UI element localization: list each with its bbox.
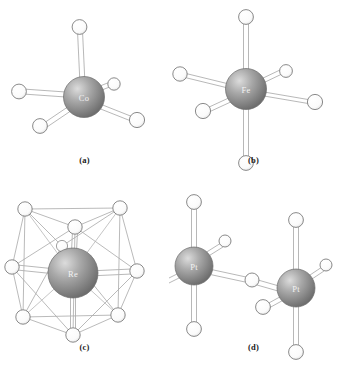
- ligand-sphere: [173, 67, 187, 81]
- metal-label-pt-right: Pt: [292, 284, 300, 294]
- ligand-sphere: [320, 259, 332, 271]
- platinum-atom-left: Pt: [175, 247, 213, 285]
- ligand-sphere: [187, 322, 202, 337]
- ligand-sphere: [280, 65, 293, 78]
- ligand-sphere: [72, 20, 87, 35]
- platinum-atom-right: Pt: [277, 269, 315, 307]
- ligand-sphere: [130, 264, 144, 278]
- panel-d-platinum-dimer: Pt Pt (d): [169, 187, 338, 374]
- bridging-ligand: [245, 273, 259, 287]
- ligand-sphere: [307, 94, 322, 109]
- panel-c-rhenium-complex: Re (c): [0, 187, 169, 374]
- iron-ligand-spheres-back: [280, 65, 293, 78]
- metal-label-re: Re: [68, 269, 78, 279]
- ligand-sphere: [239, 10, 254, 25]
- ligand-sphere: [108, 78, 120, 90]
- metal-label-pt-left: Pt: [190, 262, 198, 272]
- panel-b-iron-complex: Fe (b): [169, 0, 338, 187]
- ligand-sphere: [18, 202, 32, 216]
- ligand-sphere: [113, 201, 127, 215]
- ligand-sphere: [66, 328, 80, 342]
- ligand-sphere: [16, 310, 30, 324]
- cobalt-ligand-spheres-back: [108, 78, 120, 90]
- ligand-sphere: [12, 84, 27, 99]
- panel-a-cobalt-complex: Co (a): [0, 0, 169, 187]
- ligand-sphere: [187, 195, 202, 210]
- panel-caption-b: (b): [169, 155, 338, 165]
- ligand-sphere: [33, 119, 48, 134]
- ligand-sphere: [68, 220, 82, 234]
- metal-label-fe: Fe: [241, 85, 250, 95]
- panel-caption-a: (a): [0, 155, 169, 165]
- rhenium-atom: Re: [48, 248, 98, 298]
- ligand-sphere: [219, 235, 231, 247]
- molecular-structures-figure: Co (a): [0, 0, 338, 374]
- iron-atom: Fe: [226, 69, 267, 110]
- metal-label-co: Co: [79, 93, 90, 103]
- ligand-sphere: [5, 260, 19, 274]
- panel-caption-c: (c): [0, 342, 169, 352]
- ligand-sphere-bridging: [245, 273, 259, 287]
- panel-caption-d: (d): [169, 342, 338, 352]
- ligand-sphere: [256, 300, 271, 315]
- ligand-sphere: [195, 103, 210, 118]
- ligand-sphere: [111, 308, 125, 322]
- platinum-ligand-spheres-back: [219, 235, 332, 271]
- cobalt-atom: Co: [64, 77, 105, 118]
- ligand-sphere: [129, 112, 144, 127]
- ligand-sphere: [289, 213, 304, 228]
